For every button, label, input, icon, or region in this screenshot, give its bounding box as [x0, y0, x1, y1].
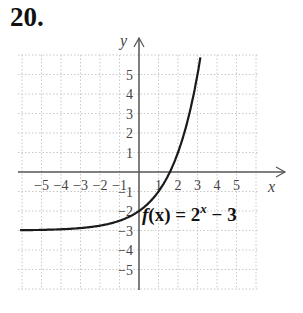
y-tick-label: −3 — [118, 224, 133, 239]
y-tick-label: 3 — [126, 107, 133, 122]
x-tick-label: 2 — [175, 178, 182, 193]
y-tick-label: 1 — [126, 146, 133, 161]
x-tick-label: −2 — [93, 178, 108, 193]
x-tick-label: −3 — [73, 178, 88, 193]
x-tick-label: −4 — [54, 178, 69, 193]
y-tick-label: 4 — [126, 87, 133, 102]
x-tick-label: 4 — [214, 178, 221, 193]
y-tick-label: −5 — [118, 263, 133, 278]
y-tick-label: −1 — [118, 185, 133, 200]
x-tick-label: 3 — [194, 178, 201, 193]
y-tick-label: −4 — [118, 243, 133, 258]
x-axis-label: x — [267, 178, 275, 195]
y-tick-label: 5 — [126, 68, 133, 83]
function-label: f(x) = 2x − 3 — [142, 201, 237, 226]
y-axis-label: y — [118, 32, 128, 50]
y-tick-label: 2 — [126, 126, 133, 141]
function-graph: x y −5−4−3−2−112345 54321−1−2−3−4−5 f(x)… — [0, 0, 303, 313]
x-tick-labels: −5−4−3−2−112345 — [34, 178, 240, 193]
x-axis — [18, 167, 285, 177]
x-tick-label: −5 — [34, 178, 49, 193]
x-tick-label: 5 — [233, 178, 240, 193]
y-axis — [134, 38, 144, 290]
